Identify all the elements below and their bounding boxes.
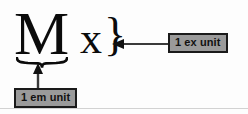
ex-specimen-glyph: x [80,17,102,61]
bottom-divider-rule [0,108,248,109]
arrow-up-svg [30,63,46,91]
arrow-left-svg [112,38,170,50]
em-ex-unit-diagram: M x } 1 ex unit 1 em unit [0,0,248,114]
arrow-head [112,39,124,49]
em-unit-callout-label: 1 em unit [14,88,77,108]
em-callout-arrow [30,63,46,91]
arrow-head [33,63,43,74]
ex-callout-arrow [112,36,170,48]
ex-height-brace: } [104,12,126,58]
ex-unit-callout-label: 1 ex unit [168,33,228,53]
